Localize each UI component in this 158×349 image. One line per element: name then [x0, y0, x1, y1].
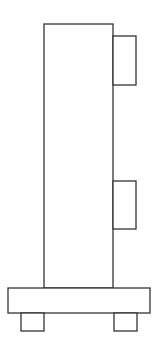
left-foot: [21, 313, 44, 331]
body-rectangle: [44, 24, 113, 288]
lower-side-tab: [113, 181, 136, 229]
base-platform: [8, 288, 150, 313]
upper-side-tab: [113, 36, 136, 85]
diagram-canvas: [0, 0, 158, 349]
right-foot: [114, 313, 137, 331]
